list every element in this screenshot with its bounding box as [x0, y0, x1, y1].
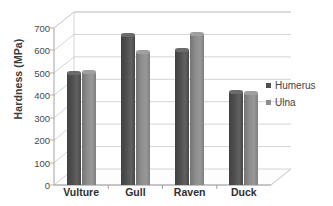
- y-tick-label: 500: [22, 67, 50, 78]
- bar-raven-ulna: [190, 34, 204, 185]
- bar-body: [229, 92, 243, 185]
- y-tick-label: 300: [22, 112, 50, 123]
- bar-chart: Hardness (MPa) 7006005004003002001000 Vu…: [0, 0, 333, 206]
- x-label-duck: Duck: [231, 186, 257, 198]
- bar-body: [190, 34, 204, 185]
- bar-top-ellipse: [121, 33, 135, 37]
- bar-raven-humerus: [175, 50, 189, 185]
- x-label-raven: Raven: [174, 186, 206, 198]
- bar-duck-ulna: [244, 93, 258, 185]
- bar-duck-humerus: [229, 92, 243, 185]
- bar-body: [244, 93, 258, 185]
- bar-top-ellipse: [67, 71, 81, 75]
- bar-gull-humerus: [121, 35, 135, 185]
- legend-label: Humerus: [275, 80, 316, 91]
- x-axis-category-labels: VultureGullRavenDuck: [54, 186, 271, 204]
- bar-vulture-humerus: [67, 73, 81, 185]
- bar-body: [67, 73, 81, 185]
- bars-layer: [54, 10, 271, 185]
- y-tick-label: 600: [22, 45, 50, 56]
- bar-top-ellipse: [136, 50, 150, 54]
- bar-top-ellipse: [229, 90, 243, 94]
- legend-item-ulna[interactable]: Ulna: [266, 97, 332, 108]
- bar-body: [175, 50, 189, 185]
- y-tick-label: 100: [22, 157, 50, 168]
- bar-top-ellipse: [190, 32, 204, 36]
- y-tick-label: 700: [22, 23, 50, 34]
- bar-gull-ulna: [136, 52, 150, 185]
- bar-body: [82, 72, 96, 185]
- legend-swatch-icon: [266, 100, 271, 105]
- x-label-gull: Gull: [125, 186, 145, 198]
- legend-swatch-icon: [266, 83, 271, 88]
- x-label-vulture: Vulture: [63, 186, 99, 198]
- bar-top-ellipse: [82, 70, 96, 74]
- chart-legend: HumerusUlna: [266, 80, 332, 114]
- legend-label: Ulna: [275, 97, 296, 108]
- y-tick-label: 0: [22, 180, 50, 191]
- y-tick-label: 400: [22, 90, 50, 101]
- bar-vulture-ulna: [82, 72, 96, 185]
- y-tick-label: 200: [22, 135, 50, 146]
- y-axis-tick-labels: 7006005004003002001000: [22, 0, 50, 206]
- plot-area: [54, 10, 271, 185]
- bar-top-ellipse: [244, 91, 258, 95]
- legend-item-humerus[interactable]: Humerus: [266, 80, 332, 91]
- bar-body: [136, 52, 150, 185]
- bar-body: [121, 35, 135, 185]
